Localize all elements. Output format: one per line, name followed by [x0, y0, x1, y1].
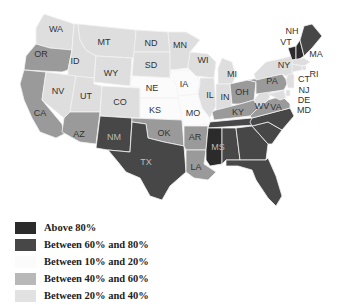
label-oh: OH	[235, 87, 249, 97]
label-nd: ND	[145, 38, 158, 48]
label-sd: SD	[145, 60, 158, 70]
label-nj: NJ	[299, 85, 310, 95]
label-de: DE	[298, 95, 311, 105]
label-mo: MO	[186, 108, 201, 118]
label-ia: IA	[180, 79, 189, 89]
label-la: LA	[190, 162, 201, 172]
legend-label: Between 10% and 20%	[44, 254, 149, 270]
label-mn: MN	[173, 40, 187, 50]
state-de[interactable]	[286, 90, 290, 96]
label-wa: WA	[49, 24, 63, 34]
label-ut: UT	[80, 91, 92, 101]
label-tx: TX	[140, 157, 152, 167]
label-mt: MT	[98, 37, 111, 47]
legend-swatch	[15, 222, 36, 234]
legend-swatch	[15, 290, 36, 302]
label-id: ID	[71, 56, 81, 66]
label-or: OR	[34, 49, 48, 59]
label-ne: NE	[146, 83, 159, 93]
state-nj[interactable]	[286, 74, 294, 88]
label-md: MD	[297, 105, 311, 115]
label-va: VA	[270, 102, 281, 112]
label-ms: MS	[211, 142, 225, 152]
label-in: IN	[221, 92, 230, 102]
label-mi: MI	[227, 69, 237, 79]
label-il: IL	[206, 90, 214, 100]
label-wy: WY	[104, 68, 119, 78]
label-ny: NY	[278, 60, 291, 70]
label-nm: NM	[107, 132, 121, 142]
legend-label: Between 40% and 60%	[44, 271, 149, 287]
legend-label: Above 80%	[44, 220, 96, 236]
label-nv: NV	[52, 86, 65, 96]
label-ar: AR	[189, 132, 202, 142]
label-wi: WI	[198, 55, 209, 65]
legend-swatch	[15, 273, 36, 285]
label-co: CO	[113, 97, 127, 107]
label-ca: CA	[34, 108, 47, 118]
label-wv: WV	[255, 101, 270, 111]
label-nh: NH	[286, 26, 299, 36]
label-ct: CT	[298, 74, 310, 84]
us-choropleth-map: WA OR CA ID NV MT WY UT AZ CO NM ND SD N…	[0, 0, 342, 210]
state-ri[interactable]	[302, 66, 306, 70]
legend-swatch	[15, 256, 36, 268]
label-vt: VT	[280, 37, 292, 47]
label-pa: PA	[266, 76, 277, 86]
state-fl[interactable]	[226, 158, 282, 206]
legend-swatch	[15, 239, 36, 251]
label-ks: KS	[149, 105, 161, 115]
legend-label: Between 20% and 40%	[44, 288, 149, 304]
label-ky: KY	[232, 107, 244, 117]
label-ma: MA	[309, 49, 323, 59]
label-ok: OK	[157, 128, 170, 138]
label-ri: RI	[310, 69, 319, 79]
legend-label: Between 60% and 80%	[44, 237, 149, 253]
label-az: AZ	[73, 129, 85, 139]
